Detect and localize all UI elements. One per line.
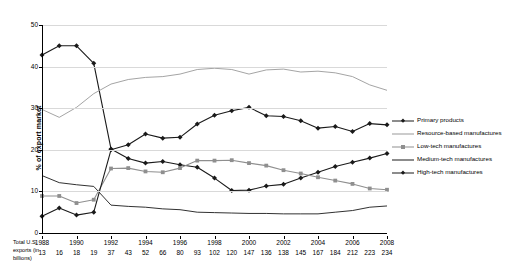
export-value: 43: [125, 250, 132, 257]
legend-item-4[interactable]: High-tech manufactures: [392, 166, 516, 179]
series-marker-0-20: [385, 151, 390, 156]
x-tick-label: 2000: [242, 240, 256, 247]
series-marker-2-7: [161, 170, 165, 174]
series-marker-2-17: [333, 179, 337, 183]
series-marker-2-8: [178, 166, 182, 170]
chart-legend: Primary productsResource-based manufactu…: [392, 114, 516, 179]
series-marker-2-3: [92, 198, 96, 202]
gridline: [42, 233, 387, 234]
legend-swatch-icon: [392, 167, 414, 178]
x-tick-label: 2006: [345, 240, 359, 247]
legend-swatch-icon: [392, 128, 414, 139]
series-marker-2-15: [299, 172, 303, 176]
y-tick-label: 40: [31, 63, 38, 70]
legend-swatch-icon: [392, 154, 414, 165]
x-tick-label: 2002: [276, 240, 290, 247]
export-value: 223: [364, 250, 375, 257]
legend-swatch-icon: [392, 115, 414, 126]
series-marker-4-17: [333, 124, 338, 129]
legend-item-0[interactable]: Primary products: [392, 114, 516, 127]
legend-label: High-tech manufactures: [417, 169, 483, 176]
series-marker-4-18: [350, 129, 355, 134]
series-marker-2-4: [109, 167, 113, 171]
series-line-1: [42, 68, 387, 117]
y-tick-label: 0: [34, 230, 38, 237]
gridline: [42, 150, 387, 151]
export-value: 52: [142, 250, 149, 257]
export-value: 80: [176, 250, 183, 257]
series-marker-0-1: [57, 43, 62, 48]
series-marker-2-10: [213, 159, 217, 163]
series-marker-2-14: [282, 168, 286, 172]
series-marker-4-14: [281, 114, 286, 119]
series-marker-2-19: [368, 187, 372, 191]
series-marker-4-7: [160, 136, 165, 141]
export-value: 145: [295, 250, 306, 257]
gridline: [42, 108, 387, 109]
x-tick-label: 1992: [104, 240, 118, 247]
y-tick-label: 10: [31, 188, 38, 195]
series-marker-4-15: [298, 118, 303, 123]
y-tick-label: 20: [31, 147, 38, 154]
series-marker-0-17: [333, 164, 338, 169]
export-value: 66: [159, 250, 166, 257]
series-marker-4-2: [74, 213, 79, 218]
gridline: [42, 67, 387, 68]
series-marker-4-10: [212, 113, 217, 118]
export-value: 234: [382, 250, 393, 257]
legend-swatch-icon: [392, 141, 414, 152]
series-marker-2-13: [264, 164, 268, 168]
series-marker-4-1: [57, 206, 62, 211]
y-tick-label: 30: [31, 105, 38, 112]
series-marker-4-13: [264, 113, 269, 118]
legend-item-2[interactable]: Low-tech manufactures: [392, 140, 516, 153]
series-marker-0-15: [298, 176, 303, 181]
export-value: 136: [261, 250, 272, 257]
legend-label: Medium-tech manufactures: [417, 156, 492, 163]
export-value: 37: [107, 250, 114, 257]
series-marker-4-6: [143, 131, 148, 136]
gridline: [42, 191, 387, 192]
export-value: 167: [313, 250, 324, 257]
chart-lines-svg: [42, 25, 387, 233]
series-marker-2-5: [126, 166, 130, 170]
x-tick-label: 1994: [138, 240, 152, 247]
series-marker-0-19: [367, 156, 372, 161]
export-value: 93: [194, 250, 201, 257]
x-tick-label: 1990: [69, 240, 83, 247]
series-marker-2-1: [57, 194, 61, 198]
x-tick-label: 1996: [173, 240, 187, 247]
series-marker-0-9: [195, 165, 200, 170]
series-marker-0-6: [143, 161, 148, 166]
legend-item-3[interactable]: Medium-tech manufactures: [392, 153, 516, 166]
export-value: 147: [244, 250, 255, 257]
series-marker-0-16: [316, 170, 321, 175]
series-marker-0-13: [264, 183, 269, 188]
export-value: 16: [56, 250, 63, 257]
series-marker-4-19: [367, 121, 372, 126]
series-marker-0-5: [126, 156, 131, 161]
series-marker-2-9: [195, 159, 199, 163]
export-value: 184: [330, 250, 341, 257]
legend-label: Primary products: [417, 117, 464, 124]
y-axis-line: [42, 25, 43, 233]
gridline: [42, 25, 387, 26]
export-value: 102: [209, 250, 220, 257]
x-tick-label: 2008: [380, 240, 394, 247]
secondary-axis-values: 1316181937435266809310212014713613814516…: [42, 250, 387, 260]
export-value: 18: [73, 250, 80, 257]
plot-area: 01020304050: [42, 25, 387, 233]
export-value: 212: [347, 250, 358, 257]
y-tick-label: 50: [31, 22, 38, 29]
y-axis-label: % of export market: [35, 105, 42, 170]
series-marker-2-2: [75, 201, 79, 205]
legend-label: Resource-based manufactures: [417, 130, 502, 137]
series-marker-2-6: [144, 170, 148, 174]
export-value: 13: [38, 250, 45, 257]
x-tick-label: 1998: [207, 240, 221, 247]
legend-item-1[interactable]: Resource-based manufactures: [392, 127, 516, 140]
series-marker-4-16: [316, 126, 321, 131]
series-marker-2-18: [351, 182, 355, 186]
export-value: 19: [90, 250, 97, 257]
series-marker-4-3: [91, 210, 96, 215]
